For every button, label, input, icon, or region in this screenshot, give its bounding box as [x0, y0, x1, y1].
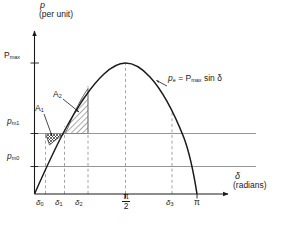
- ytick-label-pm1: pm1: [7, 117, 19, 127]
- xtick-label-delta3: δ3: [166, 199, 174, 208]
- xtick-label-delta3-sub: 3: [170, 201, 173, 207]
- equation-rhs-sub: max: [191, 77, 201, 83]
- area-label-a1: A1: [35, 104, 44, 114]
- xtick-label-delta0: δ0: [36, 199, 44, 208]
- y-axis-title-unit: (per unit): [39, 10, 73, 19]
- a2-leader-arrow: [63, 99, 79, 112]
- equation-rhs-tail: sin δ: [204, 73, 222, 83]
- ytick-label-pm0-sub: m0: [12, 155, 20, 161]
- pi-over-2-denominator: 2: [119, 202, 133, 211]
- equation-leader-arrow: [157, 81, 168, 87]
- curve-equation-annotation: pe = Pmax sin δ: [168, 74, 222, 84]
- x-ticks: [126, 194, 198, 199]
- power-angle-chart: p (per unit) Pmax pm1 pm0 δ0 δ1 δ2 π 2 δ…: [0, 0, 288, 229]
- ytick-label-pm1-sub: m1: [12, 120, 20, 126]
- ytick-label-pmax: Pmax: [4, 51, 20, 61]
- xtick-label-delta2: δ2: [75, 199, 83, 208]
- dashed-verticals: [46, 63, 173, 194]
- area-label-a2-sub: 2: [59, 93, 62, 99]
- x-axis-title-unit: (radians): [233, 181, 267, 190]
- a1-leader-arrow: [44, 114, 52, 136]
- equation-lhs-sub: e: [173, 77, 176, 83]
- area-label-a1-sub: 1: [41, 107, 44, 113]
- equation-operator: =: [178, 73, 183, 83]
- ytick-label-pm0: pm0: [7, 152, 19, 162]
- xtick-label-delta2-sub: 2: [79, 201, 82, 207]
- xtick-label-delta1-sub: 1: [59, 201, 62, 207]
- area-label-a2: A2: [53, 90, 62, 100]
- ytick-label-pmax-sub: max: [10, 54, 20, 60]
- pi-over-2-numerator: π: [119, 192, 133, 200]
- chart-canvas: [0, 0, 288, 229]
- xtick-label-delta0-sub: 0: [40, 201, 43, 207]
- y-axis-title: p (per unit): [39, 1, 73, 19]
- x-axis-title: δ (radians): [233, 172, 267, 190]
- xtick-label-pi-over-2: π 2: [119, 192, 133, 211]
- xtick-label-delta1: δ1: [55, 199, 63, 208]
- xtick-label-pi: π: [194, 198, 200, 207]
